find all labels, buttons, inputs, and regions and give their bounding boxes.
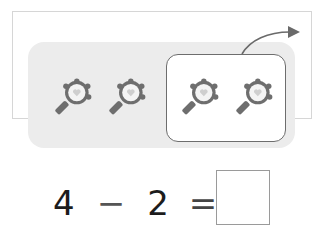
answer-input-box[interactable] (216, 170, 270, 225)
minuend: 4 (53, 186, 75, 220)
curved-arrow-icon (236, 20, 306, 60)
hand-mirror-icon (55, 78, 95, 118)
hand-mirror-icon (182, 78, 222, 118)
equation-row: 4 − 2 = (53, 183, 217, 223)
hand-mirror-icon (236, 78, 276, 118)
equals-sign: = (189, 186, 218, 220)
minus-sign: − (97, 186, 126, 220)
hand-mirror-icon (109, 78, 149, 118)
subtrahend: 2 (147, 186, 169, 220)
